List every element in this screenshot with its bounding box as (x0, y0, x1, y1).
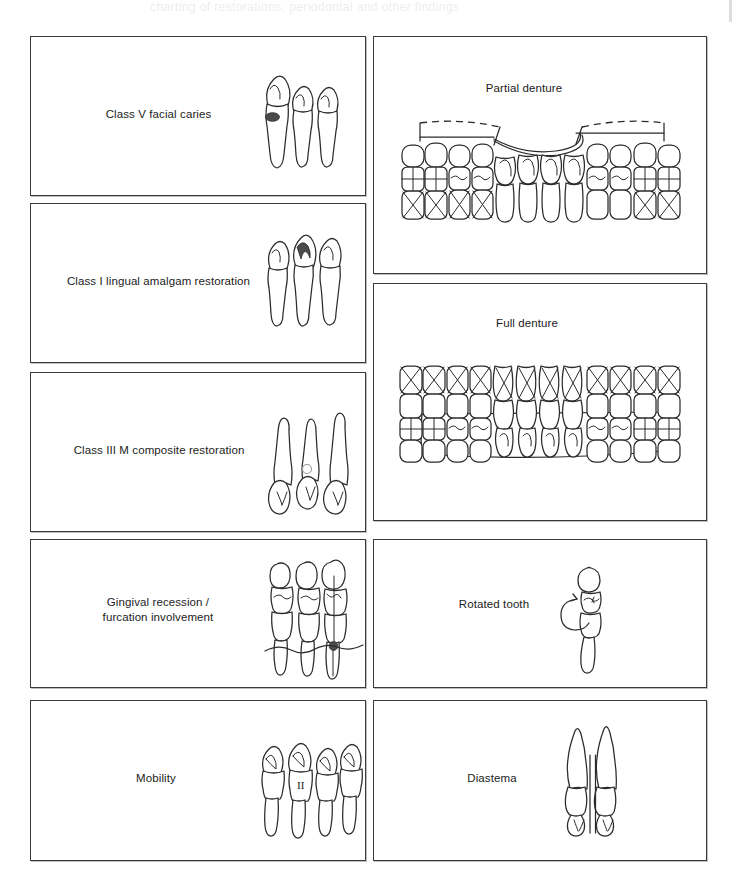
panel-diastema[interactable]: Diastema (373, 700, 707, 861)
art-three-anterior-teeth-facial-lesion (256, 57, 356, 182)
denture-span-dashed-right (582, 121, 664, 127)
panel-gingival-recession-furcation-involvement[interactable]: Gingival recession / furcation involveme… (30, 539, 366, 688)
panel-class-iii-m-composite-restoration[interactable]: Class III M composite restoration (30, 372, 366, 532)
panel-label: Class III M composite restoration (39, 443, 279, 458)
panel-label: Diastema (422, 771, 562, 786)
panel-label: Full denture (452, 316, 602, 331)
panel-partial-denture[interactable]: Partial denture (373, 36, 707, 274)
panel-label: Gingival recession / furcation involveme… (53, 595, 263, 625)
scan-artifact-header: charting of restorations, periodontal an… (150, 0, 580, 14)
art-four-anterior-teeth-with-roman-numeral: II (253, 731, 368, 841)
art-full-arch-with-dashed-span-brackets (398, 111, 684, 251)
rotation-arrow-head (571, 594, 577, 601)
panel-label: Class V facial caries (51, 107, 266, 122)
denture-base-outline (421, 412, 664, 457)
panel-full-denture[interactable]: Full denture (373, 283, 707, 521)
panel-label: Rotated tooth (424, 597, 564, 612)
chart-sheet: charting of restorations, periodontal an… (0, 0, 732, 874)
panel-class-v-facial-caries[interactable]: Class V facial caries (30, 36, 366, 196)
panel-label: Mobility (86, 771, 226, 786)
denture-span-dashed-left (420, 121, 500, 127)
panel-mobility[interactable]: Mobility II (30, 700, 366, 861)
mobility-grade-glyph: II (297, 779, 305, 791)
art-three-posterior-teeth-recession-and-furcation (263, 554, 368, 684)
art-single-tooth-with-rotation-arrow (549, 562, 639, 672)
panel-rotated-tooth[interactable]: Rotated tooth (373, 539, 707, 688)
art-full-arch-crossed-with-enclosing-outline (396, 362, 688, 472)
arch-posterior-right (587, 143, 680, 219)
rotation-arrow-arc (561, 599, 589, 630)
panel-label: Class I lingual amalgam restoration (41, 274, 276, 289)
panel-class-i-lingual-amalgam-restoration[interactable]: Class I lingual amalgam restoration (30, 203, 366, 363)
arch-posterior-left (402, 143, 493, 219)
arch-anterior (495, 155, 585, 222)
panel-label: Partial denture (444, 81, 604, 96)
